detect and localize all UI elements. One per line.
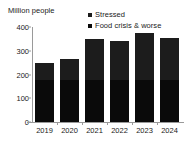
stacked-bar-chart: Million people Stressed Food crisis & wo… (0, 0, 186, 148)
x-tick-label: 2020 (61, 126, 78, 135)
x-tick-mark (157, 122, 158, 125)
x-tick-mark (132, 122, 133, 125)
bar-group[interactable] (135, 33, 155, 122)
x-tick-mark (82, 122, 83, 125)
x-axis-line (27, 122, 184, 123)
bar-segment[interactable] (160, 38, 180, 80)
bar-group[interactable] (160, 38, 180, 122)
bar-group[interactable] (85, 39, 105, 122)
legend-item-stressed[interactable]: Stressed (88, 10, 161, 19)
y-tick-label: 400 (3, 23, 29, 32)
y-axis-ticks: 0100200300400 (0, 0, 29, 148)
bar-group[interactable] (35, 63, 55, 122)
x-tick-label: 2019 (36, 126, 53, 135)
y-tick-label: 0 (3, 118, 29, 127)
x-tick-label: 2022 (111, 126, 128, 135)
x-tick-label: 2023 (136, 126, 153, 135)
bar-segment[interactable] (60, 80, 80, 122)
y-tick-label: 100 (3, 94, 29, 103)
bar-series-container (32, 27, 182, 122)
y-tick-label: 300 (3, 46, 29, 55)
x-tick-label: 2021 (86, 126, 103, 135)
bar-segment[interactable] (110, 80, 130, 122)
bar-segment[interactable] (85, 80, 105, 122)
bar-segment[interactable] (135, 33, 155, 80)
plot-area (32, 27, 182, 122)
x-tick-mark (57, 122, 58, 125)
bar-segment[interactable] (160, 80, 180, 122)
bar-group[interactable] (110, 41, 130, 122)
legend-swatch-icon (88, 13, 92, 17)
bar-segment[interactable] (85, 39, 105, 80)
legend-label: Stressed (95, 10, 125, 19)
x-tick-label: 2024 (161, 126, 178, 135)
bar-segment[interactable] (110, 41, 130, 80)
bar-segment[interactable] (135, 80, 155, 122)
bar-segment[interactable] (35, 80, 55, 122)
bar-segment[interactable] (60, 59, 80, 80)
x-tick-mark (107, 122, 108, 125)
bar-segment[interactable] (35, 63, 55, 80)
y-tick-label: 200 (3, 70, 29, 79)
bar-group[interactable] (60, 59, 80, 122)
